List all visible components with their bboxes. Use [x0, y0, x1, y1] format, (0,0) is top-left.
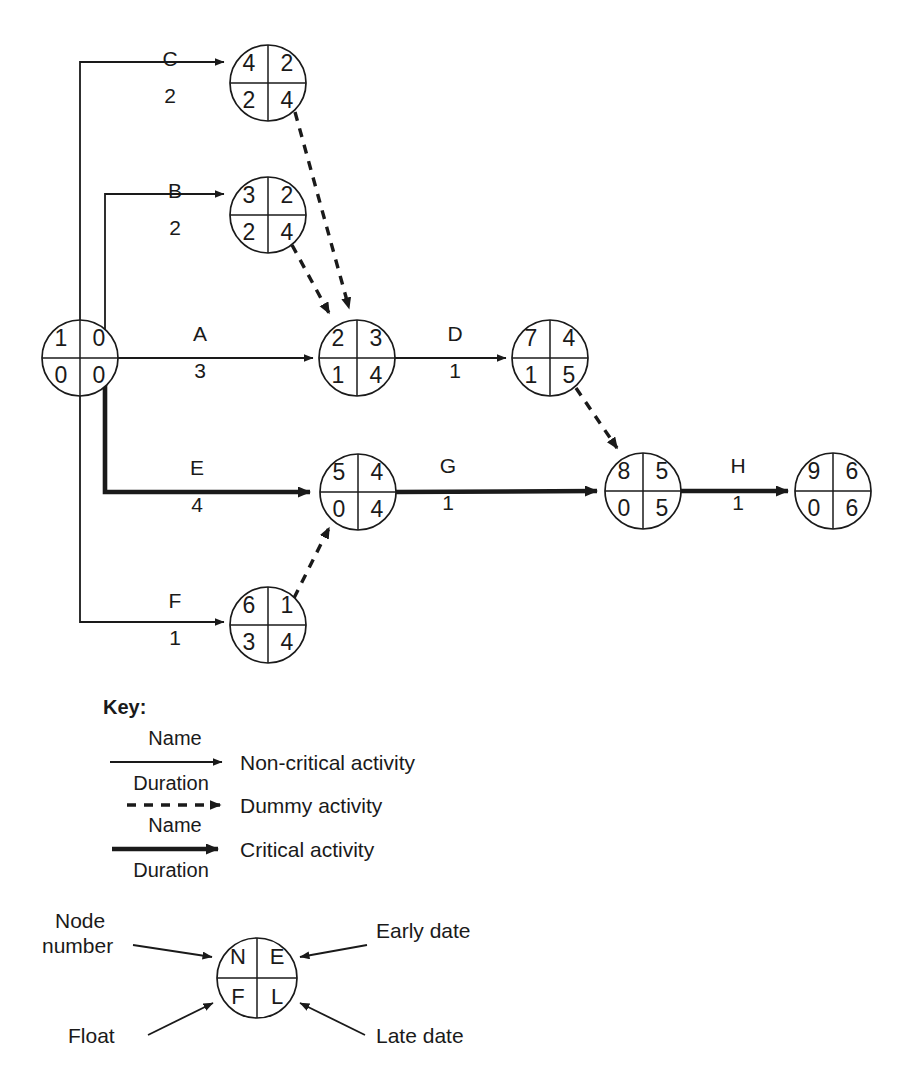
node-3-late: 4	[281, 219, 294, 245]
node-8-late: 5	[656, 495, 669, 521]
node-8-early: 5	[656, 458, 669, 484]
node-5-float: 0	[333, 496, 346, 522]
node-1-late: 0	[93, 362, 106, 388]
key-non-critical-name-label: Name	[148, 727, 201, 749]
node-5[interactable]: 5 4 0 4	[320, 454, 396, 530]
node-6[interactable]: 6 1 3 4	[230, 587, 306, 663]
node-1-number: 1	[55, 325, 68, 351]
activity-label-D-name: D	[447, 322, 462, 345]
node-7-number: 7	[525, 325, 538, 351]
node-6-number: 6	[243, 592, 256, 618]
callout-node-number-line2: number	[42, 934, 113, 957]
activity-arrow-G	[396, 491, 597, 492]
activity-label-G-duration: 1	[442, 491, 454, 514]
node-2-float: 1	[332, 362, 345, 388]
activity-label-F-name: F	[169, 589, 182, 612]
node-4-late: 4	[281, 87, 294, 113]
activity-label-E-name: E	[190, 456, 204, 479]
node-7[interactable]: 7 4 1 5	[512, 320, 588, 396]
node-1-float: 0	[55, 362, 68, 388]
node-8-number: 8	[618, 458, 631, 484]
activity-label-B-name: B	[168, 179, 182, 202]
node-2-number: 2	[332, 325, 345, 351]
activity-label-C-name: C	[162, 47, 177, 70]
activity-label-G-name: G	[440, 454, 456, 477]
node-8[interactable]: 8 5 0 5	[605, 453, 681, 529]
network-diagram-page: C 2 B 2 A 3 D 1 E 4 G 1 H 1 F 1 1 0 0 0	[0, 0, 912, 1084]
node-6-early: 1	[281, 592, 294, 618]
activity-label-B-duration: 2	[169, 216, 181, 239]
activity-label-D-duration: 1	[449, 359, 461, 382]
node-7-late: 5	[563, 362, 576, 388]
node-2[interactable]: 2 3 1 4	[319, 320, 395, 396]
key-non-critical-text: Non-critical activity	[240, 751, 416, 774]
key-title: Key:	[103, 696, 146, 718]
activity-label-C-duration: 2	[164, 84, 176, 107]
key-dummy-text: Dummy activity	[240, 794, 383, 817]
callout-node-number-line1: Node	[55, 909, 105, 932]
node-6-float: 3	[243, 629, 256, 655]
node-9-late: 6	[846, 495, 859, 521]
activity-label-H-name: H	[730, 454, 745, 477]
node-9[interactable]: 9 6 0 6	[795, 453, 871, 529]
activity-label-H-duration: 1	[732, 491, 744, 514]
node-5-number: 5	[333, 459, 346, 485]
node-7-early: 4	[563, 325, 576, 351]
activity-label-E-duration: 4	[191, 493, 203, 516]
node-1[interactable]: 1 0 0 0	[42, 320, 118, 396]
node-8-float: 0	[618, 495, 631, 521]
node-3-float: 2	[243, 219, 256, 245]
node-6-late: 4	[281, 629, 294, 655]
node-9-number: 9	[808, 458, 821, 484]
node-4-early: 2	[281, 50, 294, 76]
node-4-float: 2	[243, 87, 256, 113]
network-diagram-canvas: C 2 B 2 A 3 D 1 E 4 G 1 H 1 F 1 1 0 0 0	[0, 0, 912, 1084]
node-5-late: 4	[371, 496, 384, 522]
node-2-late: 4	[370, 362, 383, 388]
activity-label-F-duration: 1	[169, 626, 181, 649]
spacer	[208, 752, 209, 753]
callout-float-text: Float	[68, 1024, 115, 1047]
node-2-early: 3	[370, 325, 383, 351]
node-3[interactable]: 3 2 2 4	[230, 177, 306, 253]
node-4[interactable]: 4 2 2 4	[230, 45, 306, 121]
callout-late-date-text: Late date	[376, 1024, 464, 1047]
legend-node-N: N	[230, 944, 246, 969]
key-critical-duration-label: Duration	[133, 859, 209, 881]
node-7-float: 1	[525, 362, 538, 388]
node-4-number: 4	[243, 50, 256, 76]
legend-node-E: E	[270, 944, 285, 969]
activity-label-A-name: A	[193, 322, 207, 345]
node-9-early: 6	[846, 458, 859, 484]
key-critical-text: Critical activity	[240, 838, 375, 861]
node-3-number: 3	[243, 182, 256, 208]
key-non-critical-duration-label: Duration	[133, 772, 209, 794]
key-critical-name-label: Name	[148, 814, 201, 836]
node-5-early: 4	[371, 459, 384, 485]
legend-node-L: L	[271, 984, 283, 1009]
node-1-early: 0	[93, 325, 106, 351]
node-3-early: 2	[281, 182, 294, 208]
callout-early-date-text: Early date	[376, 919, 471, 942]
node-9-float: 0	[808, 495, 821, 521]
activity-label-A-duration: 3	[194, 359, 206, 382]
legend-node-F: F	[231, 984, 244, 1009]
